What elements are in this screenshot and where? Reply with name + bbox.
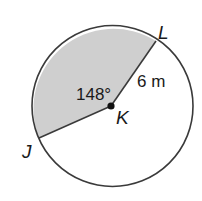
point-label-j: J [21, 141, 32, 162]
radius-label: 6 m [137, 72, 165, 91]
center-label: K [116, 107, 130, 128]
circle-diagram: 148° 6 m K L J [0, 0, 202, 201]
point-label-l: L [158, 22, 169, 43]
angle-label: 148° [76, 85, 111, 104]
